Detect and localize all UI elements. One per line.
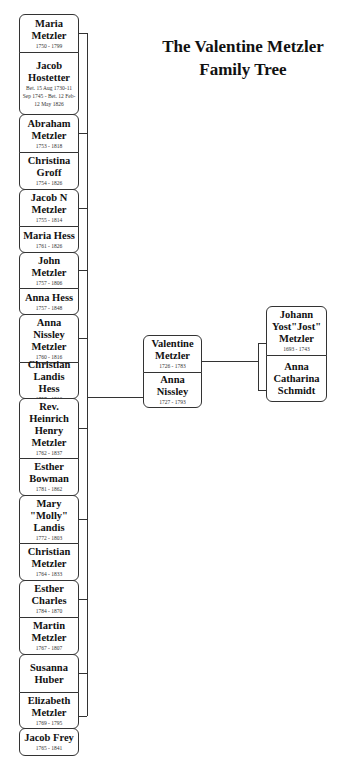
child-tick-connector [79, 33, 87, 34]
person-name: Rev. Heinrich Henry Metzler [22, 401, 76, 449]
person-name: Christina Groff [22, 155, 76, 179]
grandparents-bracket-top [258, 343, 266, 344]
person-name: Jacob N Metzler [22, 192, 76, 216]
person-card[interactable]: Maria Metzler1750 - 1799 [19, 14, 79, 53]
person-name: Christian Metzler [22, 546, 76, 570]
child-tick-connector [79, 673, 87, 674]
person-card[interactable]: Jacob N Metzler1755 - 1814 [19, 189, 79, 227]
person-name: Christian Landis Hess [22, 359, 76, 395]
person-name: Esther Charles [22, 583, 76, 607]
person-card[interactable]: Martin Metzler1767 - 1807 [19, 617, 79, 655]
person-name: Anna Nissley [146, 374, 199, 398]
person-card[interactable]: Abraham Metzler1753 - 1818 [19, 114, 79, 153]
person-card[interactable]: Esther Charles1784 - 1870 [19, 580, 79, 618]
grandparents-bracket-bottom [258, 390, 266, 391]
person-dates: 1754 - 1826 [36, 179, 63, 187]
person-name: Jacob Frey [24, 732, 74, 744]
person-dates: 1769 - 1795 [36, 719, 63, 727]
person-dates: 1757 - 1806 [36, 279, 63, 287]
person-card[interactable]: Susanna Huber [19, 654, 79, 693]
person-dates: 1750 - 1799 [36, 42, 63, 50]
person-card[interactable]: Christian Landis Hess1757 - 1816 [19, 362, 79, 399]
person-card[interactable]: Anna Hess1757 - 1848 [19, 288, 79, 315]
children-vertical-connector [87, 33, 88, 716]
person-name: Johann Yost"Jost" Metzler [269, 309, 324, 345]
title-line-2: Family Tree [148, 58, 338, 81]
person-card[interactable]: Christina Groff1754 - 1826 [19, 152, 79, 190]
person-card[interactable]: Elizabeth Metzler1769 - 1795 [19, 692, 79, 729]
child-tick-connector [79, 428, 87, 429]
person-name: Jacob Hostetter [22, 60, 76, 84]
person-name: Anna Hess [25, 292, 73, 304]
person-card[interactable]: John Metzler1757 - 1806 [19, 252, 79, 289]
title-line-1: The Valentine Metzler [148, 35, 338, 58]
person-dates: 1767 - 1807 [36, 644, 63, 652]
child-tick-connector [79, 338, 87, 339]
grandparents-bracket-vertical [258, 343, 259, 391]
person-card[interactable]: Jacob Frey1765 - 1841 [19, 728, 79, 756]
person-card[interactable]: Christian Metzler1764 - 1833 [19, 543, 79, 581]
person-card[interactable]: Maria Hess1761 - 1826 [19, 226, 79, 253]
person-dates: 1757 - 1848 [36, 304, 63, 312]
person-name: Mary "Molly" Landis [22, 498, 76, 534]
person-dates: 1762 - 1837 [36, 449, 63, 457]
child-tick-connector [79, 519, 87, 520]
person-dates: 1753 - 1818 [36, 142, 63, 150]
child-tick-connector [79, 270, 87, 271]
person-name: John Metzler [22, 255, 76, 279]
person-card[interactable]: Rev. Heinrich Henry Metzler1762 - 1837 [19, 398, 79, 459]
person-name: Anna Nissley Metzler [22, 317, 76, 353]
person-card-anna-catharina-schmidt[interactable]: Anna Catharina Schmidt [266, 355, 327, 402]
person-name: Susanna Huber [22, 662, 76, 686]
person-dates: Bet. 15 Aug 1730-11 Sep 1745 - Bet. 12 F… [22, 84, 76, 108]
person-card-anna-nissley[interactable]: Anna Nissley 1727 - 1793 [143, 372, 202, 408]
person-name: Maria Metzler [22, 18, 76, 42]
person-dates: 1772 - 1803 [36, 534, 63, 542]
child-tick-connector [79, 599, 87, 600]
person-name: Esther Bowman [22, 461, 76, 485]
person-dates: 1761 - 1826 [36, 242, 63, 250]
person-card[interactable]: Jacob HostetterBet. 15 Aug 1730-11 Sep 1… [19, 52, 79, 115]
person-dates: 1755 - 1814 [36, 216, 63, 224]
person-dates: 1765 - 1841 [36, 744, 63, 752]
person-dates: 1693 - 1743 [283, 345, 310, 353]
person-card[interactable]: Esther Bowman1781 - 1862 [19, 458, 79, 496]
person-name: Martin Metzler [22, 620, 76, 644]
parents-to-grandparents-connector [202, 361, 259, 362]
child-tick-connector [79, 716, 87, 717]
person-name: Maria Hess [23, 230, 75, 242]
person-dates: 1727 - 1793 [159, 398, 186, 406]
person-name: Abraham Metzler [22, 118, 76, 142]
child-tick-connector [79, 133, 87, 134]
person-dates: 1781 - 1862 [36, 485, 63, 493]
person-card[interactable]: Mary "Molly" Landis1772 - 1803 [19, 495, 79, 544]
children-to-parents-connector [87, 397, 143, 398]
person-name: Anna Catharina Schmidt [269, 361, 324, 397]
child-tick-connector [79, 208, 87, 209]
person-card-valentine-metzler[interactable]: Valentine Metzler 1726 - 1783 [143, 335, 202, 373]
chart-title: The Valentine Metzler Family Tree [148, 35, 338, 81]
person-dates: 1784 - 1870 [36, 607, 63, 615]
person-name: Valentine Metzler [146, 338, 199, 362]
person-card-johann-yost-metzler[interactable]: Johann Yost"Jost" Metzler 1693 - 1743 [266, 306, 327, 356]
person-dates: 1726 - 1783 [159, 362, 186, 370]
person-card[interactable]: Anna Nissley Metzler1760 - 1816 [19, 314, 79, 363]
person-name: Elizabeth Metzler [22, 695, 76, 719]
person-dates: 1764 - 1833 [36, 570, 63, 578]
